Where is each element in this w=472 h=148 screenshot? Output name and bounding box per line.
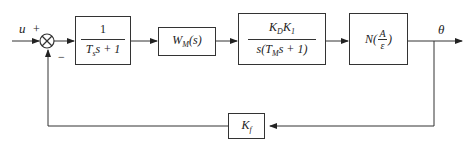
b3-numerator: KDK1 [263, 20, 301, 38]
block-controller-wm: WM(s) [158, 27, 216, 56]
summing-junction-icon [40, 34, 54, 48]
b3-denominator: s(TMs + 1) [257, 40, 308, 58]
block-motor-plant: KDK1 s(TMs + 1) [238, 13, 326, 65]
input-label-u: u [19, 21, 26, 37]
block-feedback-gain: Kf [228, 113, 265, 139]
b1-denominator: Tss + 1 [86, 40, 121, 58]
minus-sign: − [58, 50, 65, 65]
output-label-theta: θ [438, 22, 444, 38]
block-nonlinearity-describing-function: N( A ε ) [349, 13, 408, 65]
block-first-order-lag: 1 Tss + 1 [75, 16, 131, 65]
plus-sign: + [33, 22, 40, 37]
b1-numerator: 1 [94, 22, 112, 39]
